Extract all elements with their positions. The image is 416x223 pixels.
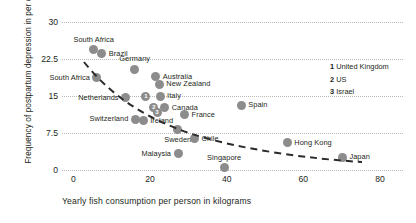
point-label: South Africa <box>49 73 89 82</box>
point-label: Netherlands <box>78 93 118 102</box>
y-tick-label: 7.5 <box>18 128 58 138</box>
data-point <box>160 103 169 112</box>
y-tick-label: 22.5 <box>18 54 58 64</box>
point-label: Chile <box>202 134 219 143</box>
data-point <box>121 93 130 102</box>
legend-item: 3 Israel <box>330 87 389 96</box>
data-point <box>237 101 246 110</box>
chart-legend: 1 United Kingdom2 US3 Israel <box>330 62 389 100</box>
legend-item: 1 United Kingdom <box>330 62 389 71</box>
data-point <box>173 125 182 134</box>
y-tick-label: 0 <box>18 165 58 175</box>
data-point <box>92 73 101 82</box>
data-point <box>180 110 189 119</box>
scatter-chart: Frequency of postpartum depression in pe… <box>0 0 416 223</box>
point-label: Italy <box>167 91 181 100</box>
point-label: Switzerland <box>90 114 129 123</box>
legend-label: Israel <box>336 87 354 96</box>
point-label: South Africa <box>73 35 113 44</box>
data-point <box>190 134 199 143</box>
point-label: Ireland <box>150 116 173 125</box>
data-point <box>130 65 139 74</box>
y-tick-label: 30 <box>18 17 58 27</box>
data-point <box>155 80 164 89</box>
gridline <box>62 133 403 134</box>
data-point <box>338 153 347 162</box>
x-tick-label: 40 <box>207 174 247 184</box>
point-label: Hong Kong <box>294 138 331 147</box>
data-point-numbered: 3 <box>153 108 162 117</box>
data-point <box>174 149 183 158</box>
x-axis-title: Yearly fish consumption per person in ki… <box>62 196 251 206</box>
point-label: Singapore <box>207 153 241 162</box>
x-tick-label: 60 <box>283 174 323 184</box>
point-label: France <box>192 110 215 119</box>
legend-item: 2 US <box>330 75 389 84</box>
data-point <box>156 92 165 101</box>
legend-label: United Kingdom <box>336 62 389 71</box>
point-label: Malaysia <box>141 149 171 158</box>
data-point <box>97 49 106 58</box>
gridline <box>62 170 403 171</box>
x-tick-label: 20 <box>130 174 170 184</box>
gridline <box>62 22 403 23</box>
data-point <box>139 116 148 125</box>
data-point-numbered: 1 <box>141 92 150 101</box>
legend-label: US <box>336 75 346 84</box>
data-point <box>220 163 229 172</box>
data-point <box>283 138 292 147</box>
point-label: Japan <box>349 152 369 161</box>
point-label: Spain <box>248 100 267 109</box>
point-label: Sweden <box>164 135 191 144</box>
y-tick-label: 15 <box>18 91 58 101</box>
gridline <box>62 59 403 60</box>
x-tick-label: 0 <box>53 174 93 184</box>
point-label: New Zealand <box>166 79 210 88</box>
point-label: Germany <box>119 54 150 63</box>
x-tick-label: 80 <box>360 174 400 184</box>
